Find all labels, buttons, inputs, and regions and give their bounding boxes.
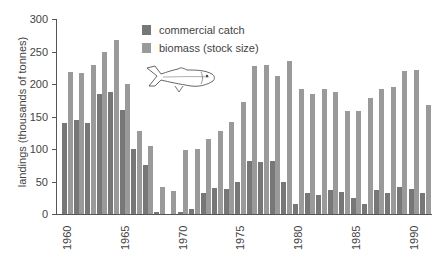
- bar-biomass: [183, 150, 188, 214]
- legend-label: commercial catch: [159, 24, 245, 36]
- bar-catch: [201, 193, 206, 214]
- bar-catch: [258, 162, 263, 214]
- bar-biomass: [333, 92, 338, 214]
- bar-biomass: [241, 102, 246, 214]
- bar-catch: [351, 198, 356, 214]
- bar-catch: [305, 193, 310, 214]
- y-tick: [52, 214, 56, 215]
- y-tick: [52, 84, 56, 85]
- bar-biomass: [368, 98, 373, 214]
- bar-chart: landings (thousands of tonnes) 050100150…: [0, 0, 439, 257]
- y-tick-label: 50: [18, 176, 48, 188]
- x-tick-label: 1975: [234, 226, 246, 250]
- bar-catch: [154, 212, 159, 214]
- bar-biomass: [414, 70, 419, 214]
- bar-biomass: [356, 111, 361, 214]
- x-tick-label: 1965: [119, 226, 131, 250]
- bar-catch: [362, 204, 367, 214]
- bar-biomass: [275, 76, 280, 214]
- bar-catch: [97, 94, 102, 214]
- x-tick-label: 1985: [350, 226, 362, 250]
- fish-icon: [145, 62, 217, 96]
- bar-catch: [224, 189, 229, 214]
- bar-biomass: [114, 40, 119, 214]
- bar-catch: [409, 189, 414, 214]
- legend-swatch-biomass: [142, 43, 151, 53]
- bar-biomass: [79, 73, 84, 214]
- bar-biomass: [91, 65, 96, 215]
- y-tick: [52, 182, 56, 183]
- bar-catch: [74, 120, 79, 214]
- bar-biomass: [160, 187, 165, 214]
- y-tick: [52, 52, 56, 53]
- bar-catch: [397, 187, 402, 214]
- y-tick: [52, 117, 56, 118]
- bar-catch: [247, 161, 252, 214]
- bar-biomass: [322, 89, 327, 214]
- bar-biomass: [102, 52, 107, 215]
- legend-label: biomass (stock size): [159, 42, 259, 54]
- bar-catch: [143, 165, 148, 214]
- x-tick-label: 1980: [292, 226, 304, 250]
- bar-biomass: [137, 131, 142, 214]
- bar-biomass: [264, 65, 269, 215]
- bar-biomass: [218, 131, 223, 214]
- bar-biomass: [229, 122, 234, 214]
- bar-biomass: [195, 149, 200, 214]
- legend-item-catch: commercial catch: [142, 21, 259, 39]
- bar-biomass: [402, 71, 407, 214]
- bar-catch: [178, 212, 183, 214]
- bar-catch: [293, 204, 298, 214]
- bar-catch: [270, 161, 275, 214]
- x-tick-label: 1990: [408, 226, 420, 250]
- bar-biomass: [68, 72, 73, 214]
- bar-catch: [85, 123, 90, 214]
- legend-swatch-catch: [142, 25, 151, 35]
- bar-catch: [339, 192, 344, 214]
- bar-biomass: [345, 111, 350, 214]
- bar-catch: [420, 193, 425, 214]
- bar-biomass: [171, 191, 176, 214]
- y-tick-label: 250: [18, 46, 48, 58]
- bar-catch: [120, 110, 125, 214]
- bar-biomass: [125, 84, 130, 214]
- bar-catch: [189, 209, 194, 214]
- bar-biomass: [287, 61, 292, 214]
- y-tick-label: 0: [18, 208, 48, 220]
- bar-catch: [131, 149, 136, 214]
- legend: commercial catch biomass (stock size): [142, 21, 259, 57]
- bar-catch: [212, 188, 217, 214]
- y-tick-label: 150: [18, 111, 48, 123]
- bar-biomass: [310, 94, 315, 214]
- bar-catch: [374, 190, 379, 214]
- y-tick-label: 300: [18, 13, 48, 25]
- bar-biomass: [391, 87, 396, 214]
- x-tick-label: 1970: [177, 226, 189, 250]
- bar-biomass: [299, 89, 304, 214]
- y-tick-label: 100: [18, 143, 48, 155]
- bar-catch: [385, 193, 390, 214]
- bar-biomass: [379, 89, 384, 214]
- bar-catch: [328, 190, 333, 214]
- bar-biomass: [426, 105, 431, 214]
- bar-catch: [62, 123, 67, 214]
- bar-catch: [235, 182, 240, 215]
- x-tick-label: 1960: [61, 226, 73, 250]
- bar-catch: [281, 182, 286, 215]
- bar-biomass: [148, 146, 153, 214]
- y-tick-label: 200: [18, 78, 48, 90]
- bar-biomass: [252, 66, 257, 214]
- bar-catch: [108, 92, 113, 214]
- bar-catch: [316, 195, 321, 215]
- y-tick: [52, 19, 56, 20]
- bar-biomass: [206, 139, 211, 214]
- legend-item-biomass: biomass (stock size): [142, 39, 259, 57]
- y-tick: [52, 149, 56, 150]
- x-axis: [56, 214, 432, 215]
